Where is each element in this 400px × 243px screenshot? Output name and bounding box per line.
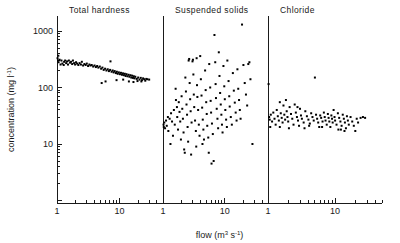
data-point xyxy=(104,68,106,70)
data-point xyxy=(201,143,203,145)
data-point xyxy=(216,108,218,110)
data-point xyxy=(343,130,345,132)
data-point xyxy=(212,133,214,135)
data-point xyxy=(185,90,187,92)
data-point xyxy=(198,124,200,126)
data-point xyxy=(241,24,243,26)
data-point xyxy=(297,120,299,122)
data-point xyxy=(60,60,62,62)
data-point xyxy=(206,113,208,115)
data-point xyxy=(211,123,213,125)
data-point xyxy=(228,95,230,97)
data-point xyxy=(323,112,325,114)
data-point xyxy=(321,126,323,128)
data-point xyxy=(229,106,231,108)
data-point xyxy=(120,72,122,74)
data-point xyxy=(319,114,321,116)
data-point xyxy=(269,126,271,128)
data-point xyxy=(322,121,324,123)
data-point xyxy=(341,125,343,127)
data-point xyxy=(223,85,225,87)
data-point xyxy=(190,110,192,112)
data-point xyxy=(176,116,178,118)
data-point xyxy=(353,125,355,127)
data-point xyxy=(201,95,203,97)
data-point xyxy=(346,115,348,117)
data-point xyxy=(195,130,197,132)
data-point xyxy=(282,122,284,124)
data-point xyxy=(77,64,79,66)
data-point xyxy=(285,99,287,101)
data-point xyxy=(356,118,358,120)
data-point xyxy=(357,122,359,124)
data-point xyxy=(232,72,234,74)
data-point xyxy=(337,112,339,114)
data-point xyxy=(251,143,253,145)
x-tick-labels: 110110110 xyxy=(54,206,340,216)
data-point xyxy=(316,118,318,120)
data-point xyxy=(66,60,68,62)
data-point xyxy=(196,84,198,86)
data-point xyxy=(217,127,219,129)
data-point xyxy=(345,127,347,129)
data-point xyxy=(230,116,232,118)
data-point xyxy=(306,115,308,117)
data-point xyxy=(80,64,82,66)
data-point xyxy=(213,34,215,36)
data-point xyxy=(118,71,120,73)
data-point xyxy=(203,139,205,141)
data-point xyxy=(247,63,249,65)
data-point xyxy=(169,118,171,120)
y-tick-label: 10 xyxy=(43,139,53,149)
data-point xyxy=(202,119,204,121)
data-point xyxy=(293,124,295,126)
data-point xyxy=(277,115,279,117)
data-point xyxy=(129,74,131,76)
data-point xyxy=(174,124,176,126)
data-point xyxy=(278,120,280,122)
data-point xyxy=(220,114,222,116)
data-point xyxy=(205,89,207,91)
data-point xyxy=(179,111,181,113)
data-point xyxy=(64,60,66,62)
data-point xyxy=(208,63,210,65)
data-point xyxy=(343,118,345,120)
data-points-2 xyxy=(163,24,254,165)
data-point xyxy=(140,80,142,82)
data-point xyxy=(215,97,217,99)
data-point xyxy=(244,82,246,84)
data-point xyxy=(63,64,65,66)
data-point xyxy=(348,124,350,126)
data-point xyxy=(193,94,195,96)
data-point xyxy=(208,152,210,154)
data-point xyxy=(71,63,73,65)
data-point xyxy=(216,118,218,120)
data-point xyxy=(202,129,204,131)
data-point xyxy=(183,131,185,133)
data-point xyxy=(325,120,327,122)
data-point xyxy=(181,95,183,97)
data-point xyxy=(222,65,224,67)
data-point xyxy=(58,61,60,63)
data-point xyxy=(291,118,293,120)
data-point xyxy=(126,73,128,75)
data-point xyxy=(134,76,136,78)
data-point xyxy=(209,87,211,89)
data-point xyxy=(283,114,285,116)
data-point xyxy=(148,79,150,81)
data-point xyxy=(289,106,291,108)
data-point xyxy=(246,105,248,107)
data-point xyxy=(268,83,270,85)
data-point xyxy=(112,69,114,71)
data-points-1 xyxy=(57,55,151,84)
data-point xyxy=(299,108,301,110)
data-point xyxy=(170,112,172,114)
data-point xyxy=(224,98,226,100)
data-point xyxy=(360,117,362,119)
data-point xyxy=(99,66,101,68)
data-point xyxy=(295,112,297,114)
data-point xyxy=(333,109,335,111)
data-point xyxy=(107,68,109,70)
data-point xyxy=(140,77,142,79)
data-point xyxy=(300,114,302,116)
